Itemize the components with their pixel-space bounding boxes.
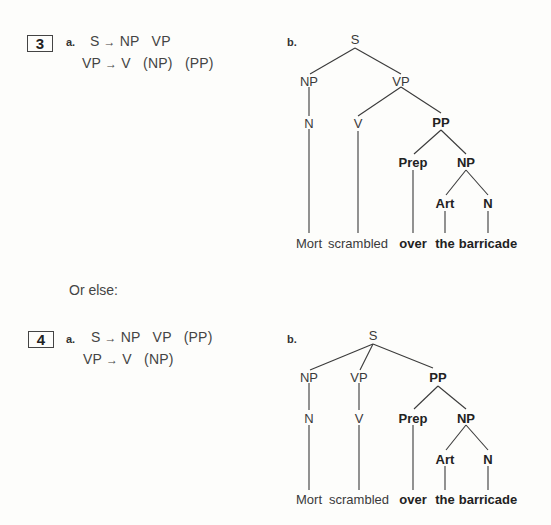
- word-barricade: barricade: [459, 236, 518, 251]
- node-N: N: [304, 411, 313, 426]
- word-scrambled: scrambled: [329, 492, 389, 507]
- node-N-object: N: [483, 452, 492, 467]
- node-V: V: [355, 411, 364, 426]
- node-V: V: [354, 116, 363, 131]
- node-PP: PP: [432, 115, 450, 130]
- node-NP-object: NP: [457, 411, 475, 426]
- node-NP: NP: [300, 370, 318, 385]
- example3-tree: S NP VP N V PP Prep NP Art N Mort scramb…: [296, 32, 517, 251]
- node-Art: Art: [436, 196, 455, 211]
- example4-tree: S NP VP PP N V Prep NP Art N Mort scramb…: [296, 328, 517, 507]
- node-Prep: Prep: [399, 155, 428, 170]
- word-mort: Mort: [296, 236, 322, 251]
- word-scrambled: scrambled: [328, 236, 388, 251]
- word-the: the: [435, 492, 455, 507]
- node-Art: Art: [436, 452, 455, 467]
- word-over: over: [399, 236, 426, 251]
- node-S: S: [369, 328, 378, 343]
- node-S: S: [351, 32, 360, 47]
- word-mort: Mort: [296, 492, 322, 507]
- node-N-object: N: [483, 196, 492, 211]
- node-Prep: Prep: [399, 411, 428, 426]
- word-the: the: [435, 236, 455, 251]
- node-PP: PP: [429, 370, 447, 385]
- word-barricade: barricade: [459, 492, 518, 507]
- node-N: N: [304, 116, 313, 131]
- node-NP: NP: [300, 74, 318, 89]
- node-VP: VP: [350, 370, 367, 385]
- syntax-trees: S NP VP N V PP Prep NP Art N Mort scramb…: [0, 0, 551, 525]
- node-VP: VP: [392, 74, 409, 89]
- word-over: over: [399, 492, 426, 507]
- node-NP-object: NP: [457, 155, 475, 170]
